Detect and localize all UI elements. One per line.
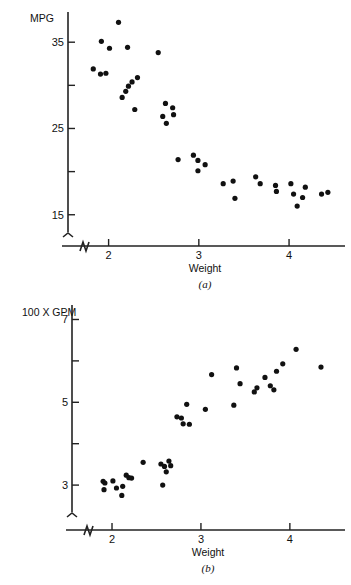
data-point	[262, 375, 267, 380]
y-tick-labels-a: 152535	[52, 36, 64, 221]
data-point	[101, 487, 106, 492]
data-point	[234, 365, 239, 370]
y-tick-label: 15	[52, 209, 64, 221]
data-point	[288, 181, 293, 186]
data-point	[132, 107, 137, 112]
y-tick-labels-b: 357	[62, 313, 68, 491]
data-point	[164, 121, 169, 126]
data-point	[160, 482, 165, 487]
data-point	[268, 383, 273, 388]
data-point	[110, 478, 115, 483]
data-point	[129, 79, 134, 84]
data-point	[116, 20, 121, 25]
data-point	[171, 112, 176, 117]
x-tick-label: 3	[196, 249, 202, 261]
data-point	[107, 46, 112, 51]
data-point	[184, 402, 189, 407]
data-point	[99, 39, 104, 44]
data-point	[231, 403, 236, 408]
data-point	[273, 183, 278, 188]
y-axis-title-a: MPG	[30, 12, 54, 24]
y-tick-label: 35	[52, 36, 64, 48]
data-point	[123, 89, 128, 94]
y-tick-label: 5	[62, 396, 68, 408]
data-point	[174, 414, 179, 419]
data-point	[119, 493, 124, 498]
data-point	[231, 179, 236, 184]
data-point	[271, 387, 276, 392]
x-tick-label: 3	[198, 533, 204, 545]
data-point	[295, 204, 300, 209]
data-point	[98, 72, 103, 77]
data-point	[318, 365, 323, 370]
data-point	[125, 45, 130, 50]
data-point	[170, 105, 175, 110]
scatter-plot-b: 357 234 100 X GPM Weight (b)	[0, 285, 351, 585]
data-point	[274, 369, 279, 374]
data-point	[160, 114, 165, 119]
data-point	[114, 485, 119, 490]
y-tick-label: 25	[52, 122, 64, 134]
data-point	[103, 71, 108, 76]
data-point	[120, 484, 125, 489]
data-point	[120, 95, 125, 100]
scatter-plot-a: 152535 234 MPG Weight (a)	[0, 0, 351, 292]
y-axis-title-b: 100 X GPM	[22, 306, 76, 318]
x-tick-labels-b: 234	[109, 533, 293, 545]
data-point	[319, 191, 324, 196]
data-point	[203, 407, 208, 412]
data-point	[124, 473, 129, 478]
x-tick-labels-a: 234	[106, 249, 293, 261]
x-axis-title-a: Weight	[189, 262, 222, 274]
data-point	[181, 421, 186, 426]
y-axis-break-b	[67, 513, 77, 517]
data-point	[191, 153, 196, 158]
x-tick-label: 4	[286, 249, 292, 261]
data-point	[280, 361, 285, 366]
chart-panel-b: 357 234 100 X GPM Weight (b)	[0, 285, 351, 585]
data-point	[274, 189, 279, 194]
data-point	[209, 372, 214, 377]
data-point	[158, 461, 163, 466]
data-point	[258, 181, 263, 186]
data-point	[135, 75, 140, 80]
x-tick-label: 2	[106, 249, 112, 261]
data-point	[168, 463, 173, 468]
data-point	[203, 162, 208, 167]
data-points-a	[91, 20, 331, 209]
data-point	[195, 168, 200, 173]
x-axis-break-b	[84, 526, 93, 535]
data-point	[129, 475, 134, 480]
y-axis-ticks-a	[68, 42, 75, 215]
data-point	[221, 181, 226, 186]
chart-panel-a: 152535 234 MPG Weight (a)	[0, 0, 351, 292]
data-point	[179, 415, 184, 420]
data-point	[291, 191, 296, 196]
data-point	[293, 347, 298, 352]
data-points-b	[101, 347, 324, 498]
data-point	[126, 84, 131, 89]
data-point	[300, 195, 305, 200]
data-point	[232, 196, 237, 201]
data-point	[254, 385, 259, 390]
y-tick-label: 3	[62, 479, 68, 491]
data-point	[141, 460, 146, 465]
x-tick-label: 4	[287, 533, 293, 545]
data-point	[325, 190, 330, 195]
data-point	[102, 480, 107, 485]
data-point	[303, 185, 308, 190]
data-point	[175, 157, 180, 162]
data-point	[187, 422, 192, 427]
x-axis-title-b: Weight	[192, 546, 225, 558]
x-axis-ticks-a	[109, 239, 289, 246]
x-axis-ticks-b	[112, 523, 290, 530]
data-point	[163, 101, 168, 106]
data-point	[195, 158, 200, 163]
page-footnote	[0, 573, 351, 585]
data-point	[91, 66, 96, 71]
data-point	[253, 174, 258, 179]
y-axis-break-a	[63, 233, 73, 237]
data-point	[237, 381, 242, 386]
data-point	[156, 50, 161, 55]
y-axis-ticks-b	[72, 319, 79, 485]
